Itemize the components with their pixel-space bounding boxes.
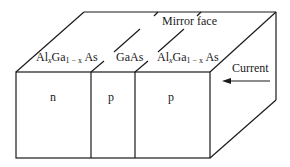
top-divider-1c [154, 12, 158, 16]
front-face [16, 72, 210, 158]
layer-1-material-label: AlxGa1 − x As [36, 50, 98, 65]
layer-2-material-label: GaAs [116, 50, 144, 64]
top-divider-2b [158, 29, 184, 52]
bottom-right-edge [210, 100, 276, 158]
box-outline [16, 12, 276, 158]
current-label: Current [232, 61, 269, 75]
arrow-left-icon [222, 78, 270, 84]
layer-2-doping-label: p [108, 90, 114, 104]
top-divider-1b [114, 29, 140, 52]
heterostructure-laser-diagram: Mirror face AlxGa1 − x As GaAs AlxGa1 − … [0, 0, 290, 167]
layer-1-doping-label: n [50, 90, 56, 104]
mirror-face-label: Mirror face [162, 14, 217, 28]
layer-3-doping-label: p [168, 90, 174, 104]
layer-3-material-label: AlxGa1 − x As [157, 50, 219, 65]
